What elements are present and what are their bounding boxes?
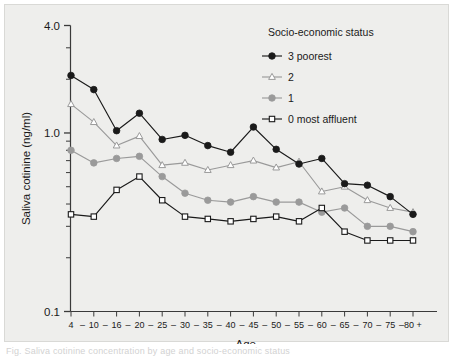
data-point-marker [228, 219, 233, 224]
data-point-marker [182, 132, 189, 139]
data-point-marker [114, 187, 119, 192]
data-series-group [68, 72, 417, 243]
data-point-marker [91, 86, 98, 93]
data-point-marker [388, 238, 393, 243]
x-tick-separator: – [125, 320, 130, 330]
legend-item-1[interactable]: 1 [262, 92, 294, 104]
data-point-marker [182, 190, 189, 197]
data-point-marker [205, 216, 210, 221]
data-point-marker [341, 180, 348, 187]
data-point-marker [269, 53, 276, 60]
data-point-marker [227, 199, 234, 206]
data-point-marker [90, 119, 97, 125]
y-tick-label: 4.0 [44, 20, 60, 32]
x-tick-separator: – [239, 320, 244, 330]
legend-label: 1 [288, 92, 294, 104]
series-line [71, 75, 413, 214]
data-point-marker [387, 193, 394, 200]
y-axis-title: Saliva cotinine (ng/ml) [20, 112, 32, 225]
data-point-marker [182, 159, 189, 165]
data-point-marker [269, 95, 276, 102]
x-tick-separator: – [103, 320, 108, 330]
legend-item-2[interactable]: 2 [262, 71, 294, 83]
x-tick-separator: – [376, 320, 381, 330]
data-point-marker [269, 73, 276, 79]
data-point-marker [160, 198, 165, 203]
data-point-marker [182, 214, 187, 219]
data-point-marker [365, 238, 370, 243]
x-tick-separator: – [262, 320, 267, 330]
data-point-marker [137, 174, 142, 179]
data-point-marker [319, 155, 326, 162]
data-point-marker [342, 229, 347, 234]
x-tick-label: 16 [112, 320, 122, 330]
legend-label: 0 most affluent [288, 113, 357, 125]
x-tick-label: 60 [317, 320, 327, 330]
x-tick-separator: – [308, 320, 313, 330]
data-point-marker [250, 193, 257, 200]
data-point-marker [227, 149, 234, 156]
chart-plot: 4.01.00.1 4–10–16–20–25–30–35–40–45–50–5… [0, 0, 453, 361]
x-tick-separator: – [353, 320, 358, 330]
caption-strip: Fig. Saliva cotinine concentration by ag… [0, 344, 453, 361]
data-point-marker [136, 110, 143, 117]
data-point-marker [273, 146, 280, 153]
x-tick-separator: – [217, 320, 222, 330]
data-point-marker [159, 173, 166, 180]
legend-label: 3 poorest [288, 50, 332, 62]
data-point-marker [205, 142, 212, 149]
caption-fragment: Fig. Saliva cotinine concentration by ag… [6, 346, 290, 356]
data-point-marker [341, 205, 348, 212]
data-point-marker [68, 212, 73, 217]
data-point-marker [205, 197, 212, 204]
series-0-most-affluent [68, 174, 415, 243]
data-point-marker [364, 182, 371, 189]
data-point-marker [250, 157, 257, 163]
data-point-marker [319, 205, 324, 210]
x-tick-label: 40 [226, 320, 236, 330]
legend-item-0-most-affluent[interactable]: 0 most affluent [262, 113, 357, 125]
figure-container: 4.01.00.1 4–10–16–20–25–30–35–40–45–50–5… [0, 0, 453, 361]
data-point-marker [274, 214, 279, 219]
data-point-marker [136, 133, 143, 139]
y-axis: 4.01.00.1 [44, 20, 71, 318]
x-axis: 4–10–16–20–25–30–35–40–45–50–55–60–65–70… [68, 312, 437, 330]
data-point-marker [410, 228, 417, 235]
legend-item-3-poorest[interactable]: 3 poorest [262, 50, 332, 62]
x-tick-separator: – [171, 320, 176, 330]
x-tick-label: 10 [89, 320, 99, 330]
data-point-marker [113, 155, 120, 162]
x-tick-label: 45 [248, 320, 258, 330]
data-point-marker [68, 101, 75, 107]
data-point-marker [68, 72, 75, 79]
data-point-marker [251, 216, 256, 221]
data-point-marker [410, 238, 415, 243]
x-tick-label: 75 [385, 320, 395, 330]
data-point-marker [269, 116, 274, 121]
x-tick-separator: – [331, 320, 336, 330]
series-3-poorest [68, 72, 417, 218]
data-point-marker [364, 223, 371, 230]
data-point-marker [113, 127, 120, 134]
x-tick-label: 55 [294, 320, 304, 330]
x-tick-label: 65 [340, 320, 350, 330]
data-point-marker [296, 219, 301, 224]
data-point-marker [387, 223, 394, 230]
series-line [71, 177, 413, 241]
data-point-marker [296, 161, 303, 168]
x-tick-label: 4 [68, 320, 73, 330]
data-point-marker [296, 199, 303, 206]
x-tick-label: 70 [362, 320, 372, 330]
data-point-marker [250, 124, 257, 131]
y-tick-label: 1.0 [44, 127, 60, 139]
data-point-marker [410, 211, 417, 218]
x-tick-separator: – [148, 320, 153, 330]
legend-title: Socio-economic status [268, 26, 374, 38]
data-point-marker [136, 153, 143, 160]
y-tick-label: 0.1 [44, 306, 60, 318]
data-point-marker [159, 136, 166, 143]
legend: Socio-economic status3 poorest210 most a… [262, 26, 374, 125]
data-point-marker [91, 214, 96, 219]
legend-label: 2 [288, 71, 294, 83]
data-point-marker [91, 160, 98, 167]
